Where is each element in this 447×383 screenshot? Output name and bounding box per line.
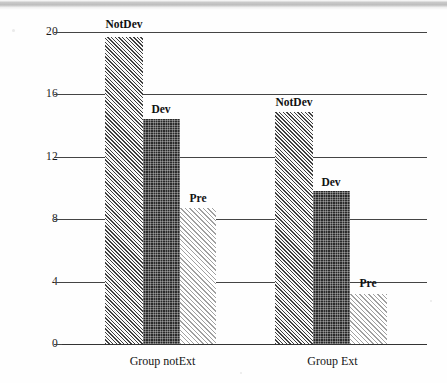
bar-ext-dev[interactable]: [313, 191, 350, 344]
bar-label-notext-notdev: NotDev: [98, 18, 150, 30]
x-axis-baseline: [62, 344, 427, 345]
y-tick-label-8: 8: [18, 213, 58, 225]
y-tick-label-20: 20: [18, 26, 58, 38]
scanned-page: Mean responses per minute 20 16 12 8 4 0: [0, 0, 447, 383]
bar-chart: Mean responses per minute 20 16 12 8 4 0: [0, 0, 447, 383]
x-tick-label-group-ext: Group Ext: [275, 355, 390, 368]
bar-notext-dev[interactable]: [143, 119, 180, 344]
gridline-20: [62, 32, 427, 33]
y-tick-label-12: 12: [18, 151, 58, 163]
bar-label-ext-notdev: NotDev: [268, 96, 320, 108]
y-tick-mark-8: [54, 219, 62, 220]
bar-notext-notdev[interactable]: [105, 37, 143, 344]
y-tick-mark-16: [54, 94, 62, 95]
bar-label-notext-pre: Pre: [178, 192, 218, 204]
y-tick-mark-0: [54, 344, 62, 345]
bar-label-ext-pre: Pre: [348, 277, 388, 289]
y-tick-label-4: 4: [18, 276, 58, 288]
y-tick-mark-4: [54, 282, 62, 283]
y-tick-label-0: 0: [18, 338, 58, 350]
plot-area: NotDev Dev Pre NotDev Dev Pre: [62, 32, 427, 344]
y-tick-label-16: 16: [18, 88, 58, 100]
y-tick-mark-20: [54, 32, 62, 33]
bar-ext-pre[interactable]: [350, 294, 387, 344]
bar-notext-pre[interactable]: [180, 208, 216, 344]
bar-ext-notdev[interactable]: [275, 112, 313, 344]
bar-label-notext-dev: Dev: [140, 103, 182, 115]
y-tick-mark-12: [54, 157, 62, 158]
bar-label-ext-dev: Dev: [310, 176, 352, 188]
x-tick-label-group-notext: Group notExt: [105, 355, 220, 368]
